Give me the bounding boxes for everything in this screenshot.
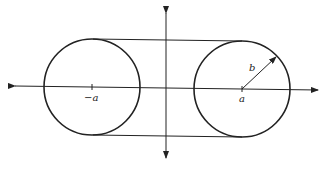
label-b: b (249, 62, 255, 73)
bottom-tangent-line (93, 135, 242, 137)
torus-cross-section-diagram: −a a b (0, 0, 331, 169)
label-minus-a: −a (84, 92, 98, 103)
top-tangent-line (93, 39, 242, 41)
label-a: a (239, 93, 245, 104)
radius-arrow (242, 57, 276, 89)
